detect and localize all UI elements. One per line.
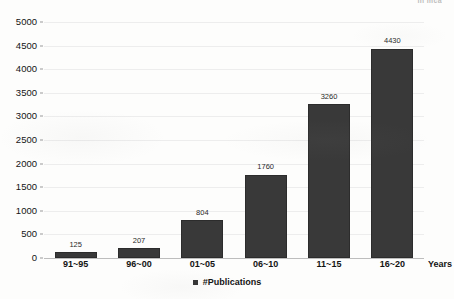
bar-group[interactable]: 125 xyxy=(55,22,97,258)
y-axis-tick-mark xyxy=(40,140,43,141)
bar-group[interactable]: 804 xyxy=(181,22,223,258)
bar-group[interactable]: 3260 xyxy=(308,22,350,258)
y-axis-tick-mark xyxy=(40,187,43,188)
y-axis-tick-label: 4000 xyxy=(16,64,37,74)
y-axis-tick-mark xyxy=(40,22,43,23)
y-axis-tick-mark xyxy=(40,258,43,259)
bar-value-label: 207 xyxy=(133,237,146,245)
y-axis-tick-label: 0 xyxy=(32,253,37,263)
x-axis-title: Years xyxy=(428,260,452,269)
y-axis-tick-mark xyxy=(40,92,43,93)
x-axis-category-label: 06~10 xyxy=(253,260,278,269)
y-axis-tick-label: 500 xyxy=(21,230,37,240)
plot-area: 0500100015002000250030003500400045005000… xyxy=(44,22,424,258)
bar-value-label: 1760 xyxy=(257,163,274,171)
y-axis-tick-mark xyxy=(40,163,43,164)
bar-group[interactable]: 207 xyxy=(118,22,160,258)
y-axis-tick-mark xyxy=(40,45,43,46)
y-axis-tick-mark xyxy=(40,116,43,117)
bar-value-label: 3260 xyxy=(321,93,338,101)
bar[interactable] xyxy=(308,104,350,258)
y-axis-tick-label: 4500 xyxy=(16,41,37,51)
bar[interactable] xyxy=(245,175,287,258)
publications-bar-chart: in mca 050010001500200025003000350040004… xyxy=(0,0,454,299)
bar[interactable] xyxy=(55,252,97,258)
bars-layer: 125207804176032604430 xyxy=(44,22,424,258)
legend-entry-label: #Publications xyxy=(203,278,262,287)
y-axis-tick-label: 2000 xyxy=(16,159,37,169)
gridline xyxy=(44,258,424,259)
y-axis-tick-mark xyxy=(40,69,43,70)
y-axis-tick-label: 2500 xyxy=(16,135,37,145)
page-header-scrap-text: in mca xyxy=(372,0,442,6)
x-axis-category-label: 16~20 xyxy=(380,260,405,269)
square-marker-icon xyxy=(193,280,198,285)
y-axis-tick-label: 5000 xyxy=(16,17,37,27)
bar-group[interactable]: 1760 xyxy=(245,22,287,258)
y-axis-tick-mark xyxy=(40,210,43,211)
y-axis-tick-label: 3500 xyxy=(16,88,37,98)
x-axis-categories: 91~9596~0001~0506~1011~1516~20 xyxy=(44,260,424,274)
y-axis-tick-label: 3000 xyxy=(16,112,37,122)
bar-group[interactable]: 4430 xyxy=(371,22,413,258)
x-axis-category-label: 11~15 xyxy=(317,260,342,269)
bar[interactable] xyxy=(371,49,413,258)
bar[interactable] xyxy=(118,248,160,258)
chart-legend: #Publications xyxy=(0,278,454,287)
y-axis-tick-label: 1000 xyxy=(16,206,37,216)
y-axis-tick-label: 1500 xyxy=(16,182,37,192)
bar-value-label: 125 xyxy=(69,241,82,249)
y-axis-tick-mark xyxy=(40,234,43,235)
x-axis-category-label: 91~95 xyxy=(63,260,88,269)
bar-value-label: 804 xyxy=(196,209,209,217)
bar[interactable] xyxy=(181,220,223,258)
x-axis-category-label: 01~05 xyxy=(190,260,215,269)
bar-value-label: 4430 xyxy=(384,37,401,45)
x-axis-category-label: 96~00 xyxy=(126,260,151,269)
